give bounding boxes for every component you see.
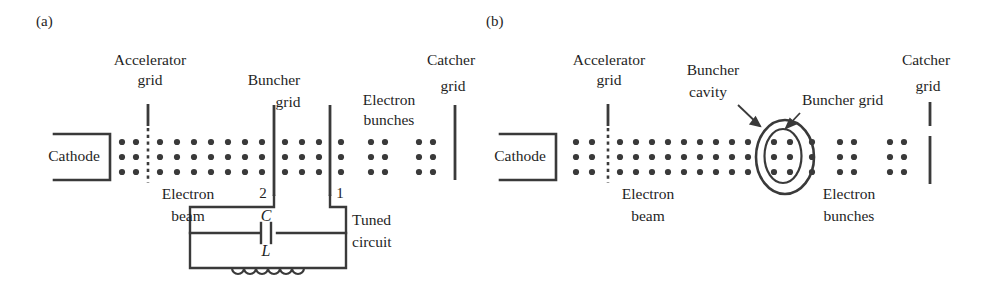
label-accelerator-grid-b-line1: Accelerator <box>553 52 665 68</box>
panel-a-tag: (a) <box>36 14 53 30</box>
label-buncher-cavity-line1: Buncher <box>671 62 755 78</box>
buncher-cavity-arrow <box>738 105 760 126</box>
label-electron-beam-b-line2: beam <box>608 208 688 224</box>
label-electron-beam-a-line2: beam <box>148 208 228 224</box>
label-buncher-grid-a-line2: grid <box>268 94 308 110</box>
label-catcher-grid-b-line1: Catcher <box>887 52 965 68</box>
electron-bunches-b <box>837 139 907 175</box>
label-capacitor-c: C <box>257 208 275 225</box>
label-electron-beam-b-line1: Electron <box>608 186 688 202</box>
label-inductor-l: L <box>258 243 274 260</box>
panel-b-tag: (b) <box>486 14 504 30</box>
label-catcher-grid-b-line2: grid <box>905 78 951 94</box>
label-accelerator-grid-b-line2: grid <box>553 72 665 88</box>
label-electron-bunches-a-line2: bunches <box>350 112 428 128</box>
label-tuned-circuit-line2: circuit <box>352 234 416 250</box>
label-electron-bunches-b-line2: bunches <box>806 208 892 224</box>
label-accelerator-grid-a-line2: grid <box>94 72 206 88</box>
figure-canvas <box>0 0 987 289</box>
label-electron-bunches-b-line1: Electron <box>806 186 892 202</box>
label-tuned-circuit-line1: Tuned <box>352 212 416 228</box>
label-grid-number-2-a: 2 <box>256 186 270 202</box>
panel-b-graphics <box>500 102 930 194</box>
label-catcher-grid-a-line1: Catcher <box>412 52 490 68</box>
electron-beam-dots-a <box>119 139 344 175</box>
label-electron-bunches-a-line1: Electron <box>350 92 428 108</box>
label-electron-beam-a-line1: Electron <box>148 186 228 202</box>
label-cathode-b: Cathode <box>482 148 558 164</box>
label-catcher-grid-a-line2: grid <box>430 78 476 94</box>
inductor-coil-a <box>190 268 346 274</box>
electron-bunches-a <box>368 139 436 175</box>
buncher-cavity-b <box>756 120 814 194</box>
label-buncher-cavity-line2: cavity <box>671 84 745 100</box>
label-accelerator-grid-a-line1: Accelerator <box>94 52 206 68</box>
label-cathode-a: Cathode <box>36 148 112 164</box>
label-buncher-grid-b: Buncher grid <box>802 92 912 108</box>
klystron-figure: (a) Accelerator grid Buncher grid Electr… <box>0 0 987 289</box>
label-buncher-grid-a-line1: Buncher <box>232 72 316 88</box>
label-grid-number-1-a: 1 <box>333 186 347 202</box>
